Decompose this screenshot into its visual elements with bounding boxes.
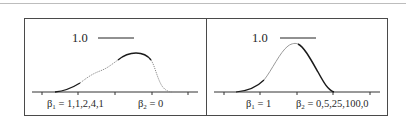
beta2-value: = 0,5,25,100,0 (307, 98, 368, 109)
beta1-value: = 1 (257, 98, 271, 109)
beta2-subscript: 2 (143, 103, 147, 111)
right-panel-plot (214, 38, 380, 95)
beta2-subscript: 2 (301, 103, 305, 111)
left-scale-label: 1.0 (72, 31, 88, 45)
right-beta2-label: β2 = 0,5,25,100,0 (296, 98, 369, 113)
right-density-curve-rise (264, 43, 298, 80)
beta2-value: = 0 (149, 98, 163, 109)
left-density-curve-solid-2 (118, 53, 151, 60)
beta1-value: = 1,1,2,4,1 (58, 98, 103, 109)
right-density-curve-left-tail (236, 80, 264, 92)
right-beta1-label: β1 = 1 (246, 98, 271, 113)
left-density-curve-solid-1 (55, 83, 80, 92)
left-panel-plot (32, 38, 198, 95)
left-density-curve-dotted-2 (151, 60, 172, 92)
right-scale-label: 1.0 (252, 31, 268, 45)
beta1-subscript: 1 (52, 103, 56, 111)
left-density-curve-dotted-1 (80, 60, 118, 83)
left-beta2-label: β2 = 0 (138, 98, 163, 113)
right-density-curve-fall (298, 44, 334, 92)
left-beta1-label: β1 = 1,1,2,4,1 (47, 98, 104, 113)
beta1-subscript: 1 (251, 103, 255, 111)
